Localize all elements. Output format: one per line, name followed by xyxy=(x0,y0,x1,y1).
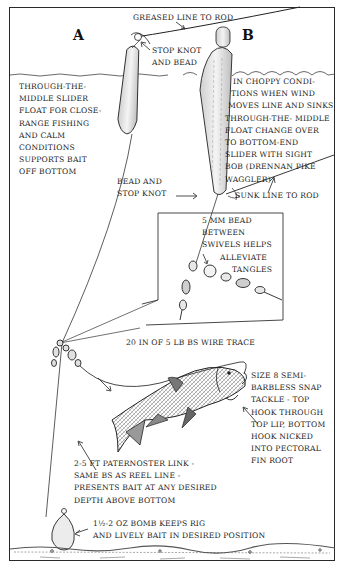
label-bead-stop-knot: BEAD AND STOP KNOT xyxy=(117,176,166,200)
junction-swivels xyxy=(52,340,82,367)
label-sunk-line: SUNK LINE TO ROD xyxy=(235,190,319,202)
bomb-weight xyxy=(52,509,75,551)
label-stop-knot-bead: STOP KNOT AND BEAD xyxy=(152,45,201,69)
float-a xyxy=(117,33,150,135)
label-bead-between-swivels: 5 MM BEAD BETWEEN SWIVELS HELPS ALLEVIAT… xyxy=(202,215,272,276)
label-bomb: 1½-2 OZ BOMB KEEPS RIG AND LIVELY BAIT I… xyxy=(93,518,265,542)
panel-label-b: B xyxy=(242,27,254,43)
label-float-a-description: THROUGH-THE- MIDDLE SLIDER FLOAT FOR CLO… xyxy=(19,81,101,179)
label-float-b-description: IN CHOPPY CONDI- TIONS WHEN WIND MOVES L… xyxy=(225,76,334,186)
label-greased-line: GREASED LINE TO ROD xyxy=(133,12,233,24)
label-snap-tackle: SIZE 8 SEMI- BARBLESS SNAP TACKLE - TOP … xyxy=(251,370,325,468)
label-wire-trace: 20 IN OF 5 LB BS WIRE TRACE xyxy=(126,337,255,349)
panel-label-a: A xyxy=(73,27,84,43)
fish-bait xyxy=(112,367,247,452)
label-paternoster-link: 2-5 FT PATERNOSTER LINK - SAME BS AS REE… xyxy=(74,458,217,507)
